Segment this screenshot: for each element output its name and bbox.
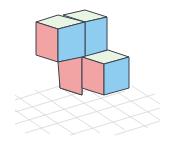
cube-lower-right — [82, 50, 129, 95]
cube-lower-left-front — [58, 57, 82, 95]
cube-upper-left — [36, 15, 85, 62]
floor-grid — [15, 86, 160, 135]
cube-diagram — [0, 0, 172, 151]
cubes — [36, 10, 129, 95]
diagram-canvas — [0, 0, 172, 151]
